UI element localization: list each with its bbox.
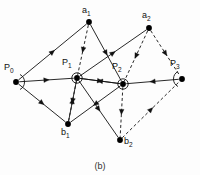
node-dot-P1 [74, 75, 80, 81]
node-dot-a1 [86, 19, 92, 25]
node-label-P1: P1 [62, 58, 72, 69]
edge-P0-to-P1 [19, 78, 74, 83]
node-label-P2: P2 [112, 62, 122, 73]
node-label-subscript: 1 [68, 62, 72, 69]
edge-P2-to-b1 [71, 86, 121, 122]
node-label-subscript: 0 [10, 67, 14, 74]
node-label-subscript: 1 [66, 132, 70, 139]
edge-arrowhead [135, 53, 139, 59]
node-label-b1: b1 [61, 128, 70, 139]
edge-arrowhead [95, 105, 100, 111]
edge-P0-to-a1 [18, 24, 86, 80]
node-dot-P2 [120, 81, 126, 87]
node-label-subscript: 2 [147, 15, 151, 22]
edge-P1-to-b1 [69, 81, 77, 121]
node-label-P3: P3 [170, 59, 180, 70]
edge-P3-to-P2 [126, 79, 179, 84]
edge-arrowhead [44, 78, 50, 83]
edge-arrowhead [103, 49, 108, 55]
edge-arrowhead [119, 109, 124, 115]
edge-P1-to-b2 [79, 81, 118, 138]
edge-arrowhead [81, 47, 86, 53]
node-label-a2: a2 [142, 11, 151, 22]
node-label-subscript: 2 [118, 66, 122, 73]
edge-a2-to-P2 [124, 31, 147, 81]
node-label-b2: b2 [124, 137, 133, 148]
graph-canvas [0, 0, 200, 175]
node-label-subscript: 3 [176, 63, 180, 70]
node-dot-P0 [13, 79, 19, 85]
node-label-a1: a1 [82, 6, 91, 17]
edge-arrowhead [162, 50, 167, 56]
edge-P0-to-b1 [18, 84, 65, 122]
node-label-P0: P0 [4, 63, 14, 74]
figure-caption: (b) [0, 161, 200, 171]
edge-arrowhead [147, 108, 153, 113]
edge-a1-to-P1 [78, 25, 89, 75]
node-dot-b2 [117, 137, 123, 143]
node-label-subscript: 1 [87, 10, 91, 17]
node-dot-P3 [179, 76, 185, 82]
figure-panel: P0P1P2P3a1a2b1b2 (b) [0, 0, 200, 175]
edge-P2-to-P1 [80, 78, 120, 83]
edge-arrowhead [150, 79, 156, 84]
edge-arrowhead [109, 51, 115, 56]
edge-P2-to-b2 [119, 87, 124, 137]
node-dot-a2 [146, 25, 152, 31]
node-label-subscript: 2 [129, 141, 133, 148]
edge-b2-to-P3 [122, 81, 179, 138]
